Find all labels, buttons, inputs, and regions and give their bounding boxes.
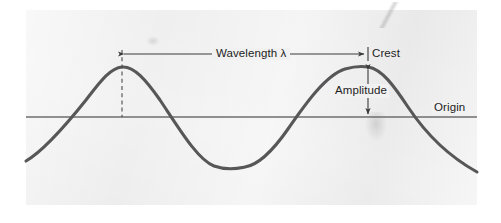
wave-diagram-svg bbox=[0, 0, 501, 223]
amplitude-label: Amplitude bbox=[333, 84, 389, 98]
wave-curve bbox=[26, 67, 477, 172]
origin-label: Origin bbox=[432, 102, 467, 114]
figure-container: Wavelength λ Crest Amplitude Origin bbox=[0, 0, 501, 223]
crest-label: Crest bbox=[372, 48, 400, 60]
wavelength-label: Wavelength λ bbox=[212, 48, 290, 60]
